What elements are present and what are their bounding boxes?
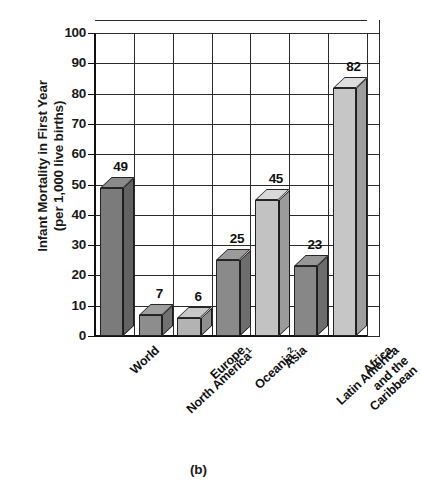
figure-caption: (b) bbox=[0, 462, 397, 477]
bar-side-face bbox=[279, 189, 290, 336]
y-axis-tick-label: 90 bbox=[52, 56, 86, 69]
bar-front-face bbox=[100, 188, 123, 336]
gridline-back-plane bbox=[367, 275, 380, 276]
gridline-horizontal bbox=[95, 63, 367, 64]
x-axis-label-line: World bbox=[128, 344, 162, 377]
bar-value-label: 6 bbox=[175, 289, 221, 304]
bar-side-face bbox=[123, 177, 134, 336]
bar[interactable]: 45 bbox=[255, 200, 278, 336]
bar-front-face bbox=[294, 266, 317, 336]
bar-value-label: 45 bbox=[253, 171, 299, 186]
y-axis-tickmark bbox=[88, 124, 95, 125]
gridline-back-plane bbox=[367, 33, 380, 34]
y-axis-tick-label: 30 bbox=[52, 238, 86, 251]
y-axis-tickmark bbox=[88, 245, 95, 246]
y-axis-tick-label: 70 bbox=[52, 117, 86, 130]
y-axis-tickmark bbox=[88, 275, 95, 276]
y-axis-tick-label: 50 bbox=[52, 178, 86, 191]
y-axis-tick-label: 100 bbox=[52, 26, 86, 39]
bar-front-face bbox=[177, 318, 200, 336]
gridline-horizontal bbox=[95, 33, 367, 34]
gridline-back-plane bbox=[367, 185, 380, 186]
gridline-horizontal bbox=[95, 124, 367, 125]
y-axis-title-line1: Infant Mortality in First Year bbox=[35, 80, 50, 252]
gridline-back-plane bbox=[367, 336, 380, 337]
bar-side-face bbox=[317, 256, 328, 336]
bar-side-face bbox=[240, 250, 251, 336]
gridline-horizontal bbox=[95, 215, 367, 216]
gridline-horizontal bbox=[95, 94, 367, 95]
bar-value-label: 25 bbox=[214, 231, 260, 246]
y-axis-tickmark bbox=[88, 185, 95, 186]
gridline-back-plane bbox=[367, 215, 380, 216]
bar[interactable]: 7 bbox=[139, 315, 162, 336]
bar-side-face bbox=[356, 77, 367, 336]
y-axis-tick-label: 80 bbox=[52, 87, 86, 100]
y-axis-tickmark bbox=[88, 306, 95, 307]
bar[interactable]: 82 bbox=[333, 88, 356, 336]
y-axis-tickmark bbox=[88, 154, 95, 155]
gridline-horizontal bbox=[95, 154, 367, 155]
y-axis-tickmark bbox=[88, 33, 95, 34]
y-axis-tick-label: 0 bbox=[52, 329, 86, 342]
plot-top-edge bbox=[95, 20, 367, 21]
bar[interactable]: 6 bbox=[177, 318, 200, 336]
gridline-back-plane bbox=[367, 94, 380, 95]
bar-front-face bbox=[216, 260, 239, 336]
y-axis-tickmark bbox=[88, 94, 95, 95]
y-axis-tickmark bbox=[88, 215, 95, 216]
y-axis-tickmark bbox=[88, 336, 95, 337]
bar-front-face bbox=[139, 315, 162, 336]
y-axis-tick-label: 40 bbox=[52, 208, 86, 221]
x-axis-category-label: World bbox=[128, 344, 162, 377]
y-axis-tick-label: 10 bbox=[52, 299, 86, 312]
bar[interactable]: 23 bbox=[294, 266, 317, 336]
y-axis-tickmark bbox=[88, 63, 95, 64]
back-plane-edge bbox=[379, 20, 380, 336]
gridline-back-plane bbox=[367, 154, 380, 155]
y-axis-tick-label: 20 bbox=[52, 268, 86, 281]
plot-area: 497625452382 bbox=[95, 33, 367, 336]
bar-value-label: 49 bbox=[97, 159, 143, 174]
gridline-back-plane bbox=[367, 306, 380, 307]
gridline-vertical bbox=[328, 33, 329, 336]
gridline-horizontal bbox=[95, 185, 367, 186]
bar-front-face bbox=[333, 88, 356, 336]
bar[interactable]: 49 bbox=[100, 188, 123, 336]
bar-value-label: 82 bbox=[331, 59, 377, 74]
bar[interactable]: 25 bbox=[216, 260, 239, 336]
bar-front-face bbox=[255, 200, 278, 336]
gridline-back-plane bbox=[367, 124, 380, 125]
y-axis-tick-label: 60 bbox=[52, 147, 86, 160]
gridline-back-plane bbox=[367, 245, 380, 246]
bar-value-label: 23 bbox=[292, 237, 338, 252]
